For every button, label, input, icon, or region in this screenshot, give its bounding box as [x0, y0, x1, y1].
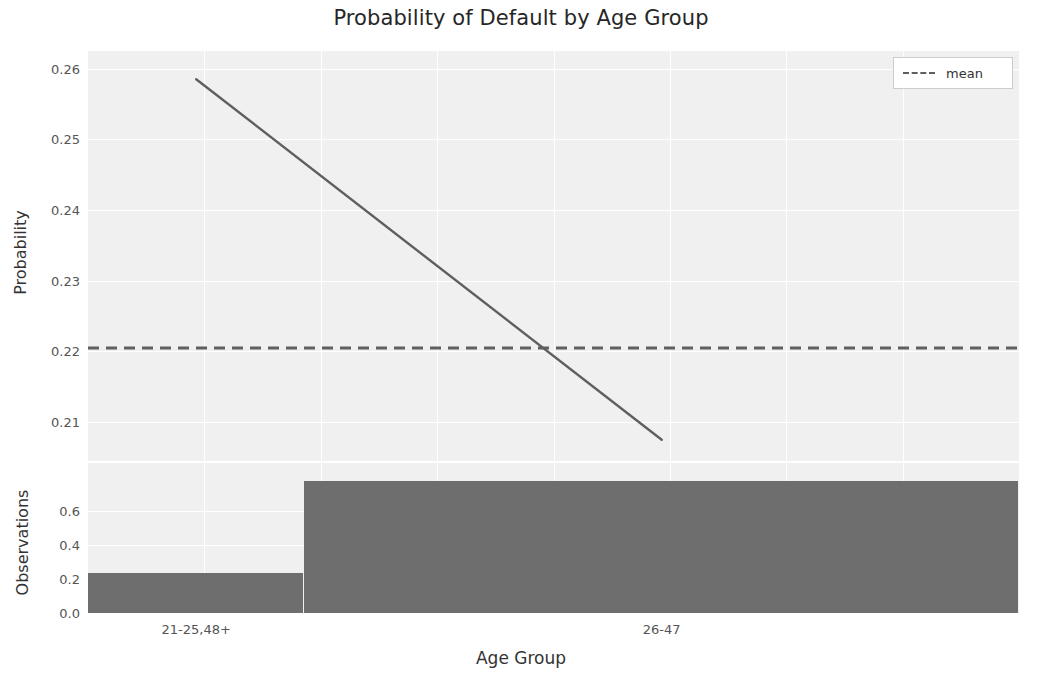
chart-title: Probability of Default by Age Group [0, 6, 1042, 30]
chart-figure: Probability of Default by Age Group 0.26… [0, 0, 1042, 699]
legend-entry-label: mean [946, 66, 983, 81]
probability-series-overlay [88, 51, 1019, 461]
observations-axis-label: Observations [13, 463, 32, 623]
xtick-label: 21-25,48+ [162, 622, 231, 637]
observation-bar [88, 573, 303, 613]
probability-trend-line [196, 79, 662, 440]
xtick-label: 26-47 [643, 622, 681, 637]
ytick-label: 0.21 [6, 415, 80, 430]
observations-panel [88, 463, 1019, 613]
ytick-label: 0.25 [6, 132, 80, 147]
probability-axis-label: Probability [11, 173, 30, 333]
mean-legend-dash-icon [903, 72, 935, 74]
ytick-label: 0.26 [6, 61, 80, 76]
chart-legend[interactable]: mean [893, 57, 1013, 89]
ytick-label: 0.22 [6, 344, 80, 359]
observation-bar [304, 481, 1018, 613]
x-axis-label: Age Group [0, 648, 1042, 668]
